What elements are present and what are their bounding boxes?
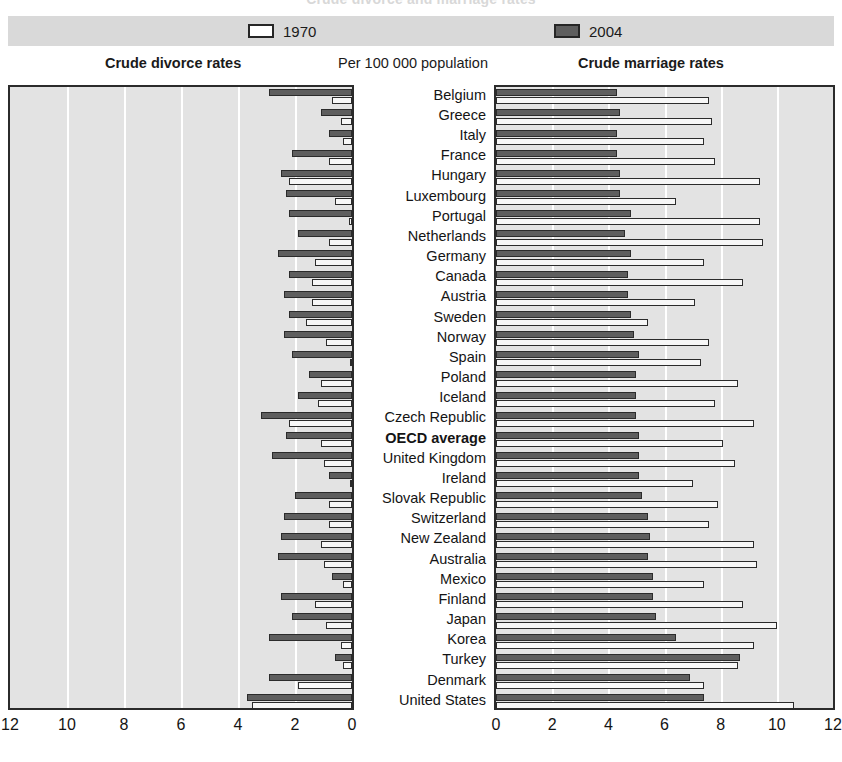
bar-1970 (496, 601, 743, 608)
table-row (10, 87, 352, 108)
table-row (10, 611, 352, 632)
table-row (10, 692, 352, 710)
table-row (10, 410, 352, 431)
bar-2004 (496, 613, 656, 620)
table-row (496, 631, 833, 652)
bar-1970 (329, 239, 352, 246)
bar-1970 (496, 97, 709, 104)
table-row (496, 127, 833, 148)
bar-2004 (496, 271, 628, 278)
bar-1970 (496, 561, 757, 568)
table-row (496, 430, 833, 451)
chart-title-strip: Crude divorce and marriage rates (0, 0, 842, 14)
bar-2004 (272, 452, 352, 459)
bar-2004 (496, 674, 690, 681)
table-row (496, 389, 833, 410)
axis-tick-label: 8 (716, 714, 725, 736)
bar-1970 (350, 480, 352, 487)
bar-2004 (289, 210, 352, 217)
country-label: Sweden (434, 307, 486, 327)
bar-1970 (324, 561, 353, 568)
table-row (496, 309, 833, 330)
bar-1970 (321, 380, 352, 387)
axis-tick-label: 2 (548, 714, 557, 736)
bar-1970 (306, 319, 352, 326)
bar-2004 (496, 371, 636, 378)
bar-2004 (496, 573, 653, 580)
bar-1970 (332, 97, 352, 104)
bar-2004 (289, 271, 352, 278)
panel-subtitles: Crude divorce rates Per 100 000 populati… (0, 52, 842, 76)
bar-1970 (496, 480, 693, 487)
bar-2004 (496, 432, 639, 439)
bar-2004 (496, 170, 620, 177)
table-row (496, 289, 833, 310)
axis-tick-label: 8 (120, 714, 129, 736)
bar-1970 (321, 541, 352, 548)
bar-2004 (496, 412, 636, 419)
country-label: Greece (438, 105, 486, 125)
bar-2004 (496, 694, 704, 701)
bar-1970 (496, 682, 704, 689)
table-row (10, 470, 352, 491)
bar-2004 (292, 351, 352, 358)
table-row (496, 87, 833, 108)
bar-2004 (496, 472, 639, 479)
bar-1970 (496, 118, 712, 125)
table-row (496, 107, 833, 128)
table-row (496, 188, 833, 209)
bar-2004 (292, 150, 352, 157)
axis-tick-label: 4 (234, 714, 243, 736)
country-label: Netherlands (408, 226, 486, 246)
bar-2004 (496, 492, 642, 499)
subtitle-units: Per 100 000 population (338, 52, 488, 74)
bar-1970 (343, 138, 352, 145)
table-row (496, 551, 833, 572)
bar-2004 (278, 553, 352, 560)
bar-1970 (496, 218, 760, 225)
table-row (10, 369, 352, 390)
table-row (10, 389, 352, 410)
axis-tick-label: 4 (604, 714, 613, 736)
bar-1970 (343, 581, 352, 588)
axis-tick-label: 10 (58, 714, 76, 736)
bar-2004 (269, 674, 352, 681)
table-row (496, 147, 833, 168)
bar-1970 (496, 400, 715, 407)
axis-tick-label: 6 (177, 714, 186, 736)
country-label: Hungary (431, 166, 486, 186)
bar-2004 (496, 150, 617, 157)
table-row (496, 369, 833, 390)
country-label: Australia (430, 549, 486, 569)
legend-item-2004[interactable]: 2004 (554, 16, 622, 46)
bar-1970 (496, 541, 754, 548)
bar-1970 (252, 702, 352, 709)
country-label: Mexico (440, 569, 486, 589)
bar-2004 (496, 230, 625, 237)
bar-2004 (261, 412, 352, 419)
bar-2004 (496, 593, 653, 600)
table-row (496, 450, 833, 471)
country-label-column: BelgiumGreeceItalyFranceHungaryLuxembour… (356, 85, 492, 710)
marriage-panel (494, 85, 835, 710)
bar-2004 (496, 250, 631, 257)
legend-item-1970[interactable]: 1970 (248, 16, 316, 46)
table-row (10, 208, 352, 229)
legend-swatch-2004-icon (554, 24, 580, 38)
bar-1970 (312, 299, 352, 306)
bar-2004 (284, 291, 352, 298)
bar-2004 (332, 573, 352, 580)
country-label: Slovak Republic (382, 488, 486, 508)
country-label: United Kingdom (383, 448, 486, 468)
bar-1970 (496, 279, 743, 286)
country-label: Turkey (442, 650, 486, 670)
chart-figure: Crude divorce and marriage rates 1970 20… (0, 0, 842, 762)
country-label: Italy (459, 125, 486, 145)
table-row (496, 248, 833, 269)
bar-1970 (349, 218, 352, 225)
bar-2004 (496, 89, 617, 96)
bar-2004 (286, 432, 352, 439)
bar-2004 (496, 654, 740, 661)
bar-1970 (496, 622, 777, 629)
country-label: France (441, 145, 486, 165)
